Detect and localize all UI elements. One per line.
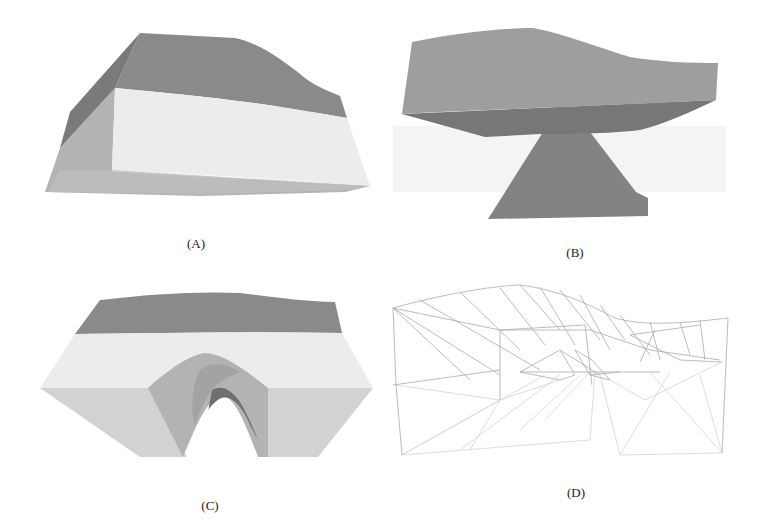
- panel-d-mesh-lines-faint: [396, 362, 722, 455]
- panel-c-caption: (C): [201, 499, 218, 512]
- panel-d-caption: (D): [567, 486, 585, 499]
- panel-d-wireframe: [0, 0, 762, 525]
- figure: (A) (B) (C) (D): [0, 0, 762, 525]
- panel-a-caption: (A): [187, 237, 205, 250]
- panel-b-caption: (B): [566, 246, 583, 259]
- panel-d-mesh-lines: [393, 285, 728, 455]
